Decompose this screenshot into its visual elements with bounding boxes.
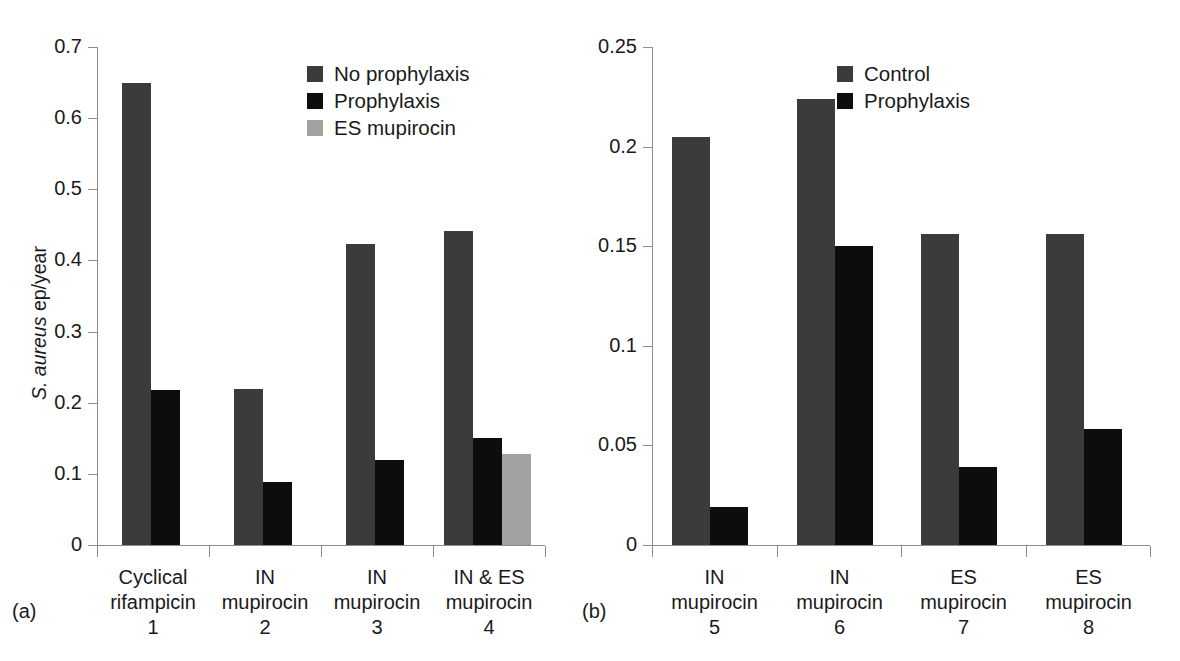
y-tick-mark [88, 403, 97, 404]
legend-swatch [307, 66, 323, 82]
legend-panel-a: No prophylaxisProphylaxisES mupirocin [307, 60, 470, 141]
panel-tag-b: (b) [582, 600, 606, 623]
y-tick-mark [88, 118, 97, 119]
y-tick-mark [88, 47, 97, 48]
y-tick-mark [643, 147, 652, 148]
x-category-label-number: 1 [97, 615, 209, 640]
plot-area-a: 00.10.20.30.40.50.60.7Cyclicalrifampicin… [0, 0, 570, 661]
y-tick-label: 0.15 [598, 235, 637, 255]
x-category-label-number: 6 [777, 615, 902, 640]
x-category-label-line2: rifampicin [97, 590, 209, 615]
legend-label: Control [864, 63, 930, 84]
y-axis-line [97, 47, 98, 545]
x-category-label-line1: IN [209, 565, 321, 590]
bar [346, 244, 375, 545]
y-axis-title-unit: ep/year [28, 246, 50, 316]
bar [1084, 429, 1122, 545]
x-category-label-line1: IN [777, 565, 902, 590]
x-category-label: INmupirocin2 [209, 565, 321, 640]
x-category-label-number: 4 [433, 615, 545, 640]
legend-label: Prophylaxis [864, 90, 970, 111]
x-category-label-number: 8 [1026, 615, 1151, 640]
y-tick-mark [88, 332, 97, 333]
x-category-label-line2: mupirocin [901, 590, 1026, 615]
x-tick-mark [433, 546, 434, 557]
x-category-label-line1: IN & ES [433, 565, 545, 590]
x-category-label-line2: mupirocin [321, 590, 433, 615]
y-tick-label: 0.2 [54, 392, 82, 412]
y-tick-label: 0 [626, 534, 637, 554]
y-tick-mark [643, 47, 652, 48]
legend-swatch [307, 93, 323, 109]
x-category-label: INmupirocin5 [652, 565, 777, 640]
x-tick-mark [901, 546, 902, 557]
figure-root: 00.10.20.30.40.50.60.7Cyclicalrifampicin… [0, 0, 1180, 661]
x-category-label-line1: IN [652, 565, 777, 590]
y-tick-mark [88, 260, 97, 261]
y-tick-mark [88, 189, 97, 190]
bar [122, 83, 151, 545]
x-category-label-line2: mupirocin [777, 590, 902, 615]
x-category-label: ESmupirocin7 [901, 565, 1026, 640]
legend-swatch [837, 66, 853, 82]
y-tick-mark [88, 545, 97, 546]
y-tick-label: 0.7 [54, 36, 82, 56]
y-tick-label: 0.05 [598, 434, 637, 454]
bar [797, 99, 835, 545]
x-category-label: INmupirocin6 [777, 565, 902, 640]
bar [710, 507, 748, 545]
y-tick-label: 0.25 [598, 36, 637, 56]
x-category-label-line1: ES [901, 565, 1026, 590]
y-tick-label: 0.1 [609, 335, 637, 355]
x-category-label-line2: mupirocin [209, 590, 321, 615]
x-tick-mark [321, 546, 322, 557]
bar [502, 454, 531, 545]
x-tick-mark [1150, 546, 1151, 557]
x-category-label-line1: ES [1026, 565, 1151, 590]
x-tick-mark [209, 546, 210, 557]
legend-swatch [307, 120, 323, 136]
bar [151, 390, 180, 545]
x-category-label-line2: mupirocin [433, 590, 545, 615]
legend-item: Control [837, 60, 970, 87]
y-tick-mark [643, 445, 652, 446]
y-tick-mark [88, 474, 97, 475]
y-tick-label: 0.4 [54, 249, 82, 269]
x-category-label: ESmupirocin8 [1026, 565, 1151, 640]
y-axis-line [652, 47, 653, 545]
bar [473, 438, 502, 545]
legend-panel-b: ControlProphylaxis [837, 60, 970, 114]
legend-item: Prophylaxis [307, 87, 470, 114]
legend-item: ES mupirocin [307, 114, 470, 141]
y-tick-label: 0 [71, 534, 82, 554]
bar [672, 137, 710, 545]
x-tick-mark [652, 546, 653, 557]
y-tick-label: 0.1 [54, 463, 82, 483]
y-tick-label: 0.2 [609, 136, 637, 156]
x-tick-mark [97, 546, 98, 557]
x-category-label-number: 3 [321, 615, 433, 640]
y-tick-label: 0.5 [54, 178, 82, 198]
x-tick-mark [777, 546, 778, 557]
legend-label: No prophylaxis [334, 63, 470, 84]
bar [1046, 234, 1084, 545]
y-tick-label: 0.6 [54, 107, 82, 127]
y-tick-mark [643, 246, 652, 247]
y-axis-title-species: S. aureus [28, 317, 50, 400]
chart-panel-b: 00.050.10.150.20.25INmupirocin5INmupiroc… [582, 0, 1180, 661]
x-category-label-number: 5 [652, 615, 777, 640]
bar [921, 234, 959, 545]
bar [444, 231, 473, 545]
bar [234, 389, 263, 545]
chart-panel-a: 00.10.20.30.40.50.60.7Cyclicalrifampicin… [0, 0, 570, 661]
x-tick-mark [1026, 546, 1027, 557]
bar [375, 460, 404, 545]
x-category-label-line2: mupirocin [652, 590, 777, 615]
legend-swatch [837, 93, 853, 109]
x-category-label: IN & ESmupirocin4 [433, 565, 545, 640]
x-tick-mark [545, 546, 546, 557]
x-category-label-number: 7 [901, 615, 1026, 640]
y-tick-label: 0.3 [54, 321, 82, 341]
bar [263, 482, 292, 545]
bars-layer-a [0, 0, 570, 661]
